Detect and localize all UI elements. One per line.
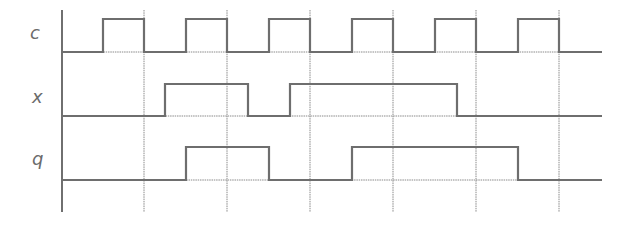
waveform-c [62, 19, 602, 52]
waveform-x [62, 84, 602, 116]
signal-label-x: x [32, 86, 43, 107]
signal-waveforms [62, 19, 602, 180]
waveform-q [62, 147, 602, 180]
timing-diagram [0, 0, 632, 230]
signal-label-q: q [32, 148, 43, 169]
signal-label-c: c [30, 22, 40, 43]
